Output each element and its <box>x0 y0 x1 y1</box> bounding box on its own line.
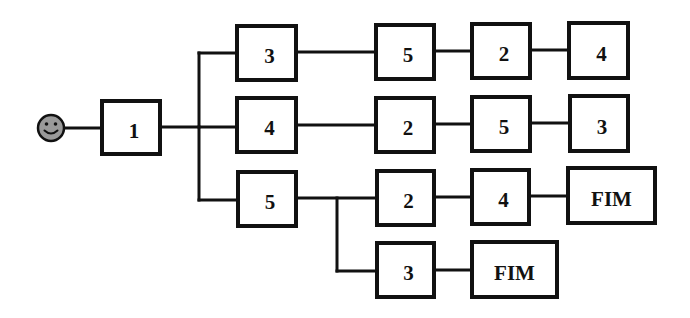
smiley-face-icon <box>38 115 64 141</box>
node-box-n4: 5 <box>238 172 296 226</box>
node-label: 1 <box>129 119 140 143</box>
node-box-n3: 4 <box>237 98 296 152</box>
node-label: 4 <box>498 188 509 212</box>
node-box-n10: 5 <box>472 97 530 151</box>
node-label: 5 <box>265 190 276 214</box>
node-label: 5 <box>403 43 414 67</box>
node-label: FIM <box>591 187 632 211</box>
node-boxes: 13455223254FIM43FIM <box>102 23 655 297</box>
node-label: 3 <box>403 261 414 285</box>
node-label: 2 <box>403 189 414 213</box>
node-label: 3 <box>597 115 608 139</box>
node-label: 4 <box>264 116 275 140</box>
node-box-n12: FIM <box>472 242 557 297</box>
node-label: 2 <box>403 116 414 140</box>
connectors <box>64 50 570 271</box>
node-box-n7: 2 <box>377 171 434 225</box>
node-box-n13: 4 <box>569 23 628 78</box>
node-label: 5 <box>499 115 510 139</box>
node-box-n6: 2 <box>376 98 434 152</box>
node-box-n15: FIM <box>568 168 655 223</box>
node-box-n9: 2 <box>472 24 530 78</box>
node-box-n8: 3 <box>377 243 434 297</box>
node-box-n2: 3 <box>237 26 296 80</box>
node-box-n5: 5 <box>376 25 434 79</box>
node-box-n11: 4 <box>472 170 529 224</box>
node-box-n1: 1 <box>102 101 160 154</box>
node-label: 3 <box>264 44 275 68</box>
node-label: FIM <box>494 261 535 285</box>
sequence-tree-diagram: 13455223254FIM43FIM <box>0 0 690 318</box>
node-label: 4 <box>596 42 607 66</box>
node-label: 2 <box>499 42 510 66</box>
node-box-n14: 3 <box>570 96 628 151</box>
